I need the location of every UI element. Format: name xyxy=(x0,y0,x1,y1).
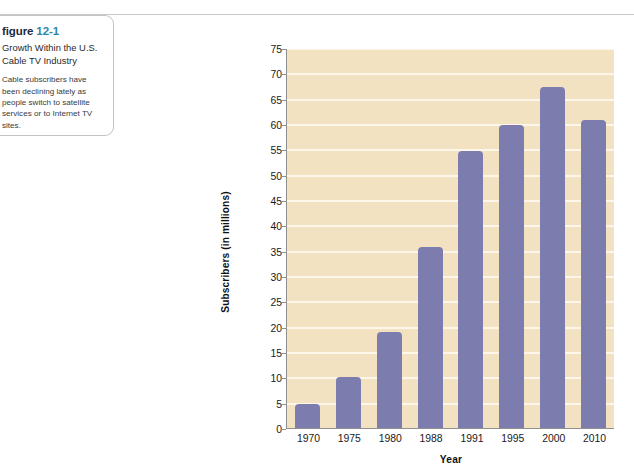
x-tick-label: 2010 xyxy=(583,433,606,444)
y-tick-mark xyxy=(281,252,286,253)
y-tick-label: 10 xyxy=(256,373,282,384)
y-tick-label: 65 xyxy=(256,94,282,105)
bar xyxy=(540,87,565,429)
figure-description: Cable subscribers have been declining la… xyxy=(2,74,103,131)
bar xyxy=(336,377,361,429)
y-tick-mark xyxy=(281,201,286,202)
x-tick-label: 1970 xyxy=(297,433,320,444)
x-tick-label: 1988 xyxy=(420,433,443,444)
y-tick-label: 50 xyxy=(256,170,282,181)
y-axis-tick-labels: 051015202530354045505560657075 xyxy=(256,49,282,429)
y-tick-label: 25 xyxy=(256,297,282,308)
bar xyxy=(418,247,443,429)
y-tick-label: 55 xyxy=(256,145,282,156)
figure-title: Growth Within the U.S. Cable TV Industry xyxy=(2,42,103,67)
y-tick-label: 45 xyxy=(256,196,282,207)
x-axis-line xyxy=(286,428,614,429)
y-tick-label: 5 xyxy=(256,398,282,409)
figure-heading-word: figure xyxy=(2,25,33,37)
y-tick-label: 40 xyxy=(256,221,282,232)
figure-heading: figure12-1 xyxy=(2,25,103,37)
y-tick-mark xyxy=(281,74,286,75)
y-tick-mark xyxy=(281,404,286,405)
y-tick-mark xyxy=(281,378,286,379)
y-tick-label: 20 xyxy=(256,322,282,333)
bar-chart: Subscribers (in millions) 05101520253035… xyxy=(226,34,634,464)
gridline xyxy=(287,73,614,75)
figure-caption-panel: figure12-1 Growth Within the U.S. Cable … xyxy=(0,15,114,136)
y-tick-label: 0 xyxy=(256,424,282,435)
y-tick-mark xyxy=(281,100,286,101)
plot-area xyxy=(287,49,614,429)
x-axis-title: Year xyxy=(287,454,615,464)
y-tick-label: 70 xyxy=(256,69,282,80)
bar xyxy=(581,120,606,429)
x-tick-label: 1991 xyxy=(460,433,483,444)
y-tick-mark xyxy=(281,353,286,354)
y-tick-mark xyxy=(281,302,286,303)
y-tick-label: 30 xyxy=(256,272,282,283)
y-tick-mark xyxy=(281,176,286,177)
y-tick-label: 75 xyxy=(256,44,282,55)
y-tick-mark xyxy=(281,277,286,278)
y-tick-label: 15 xyxy=(256,348,282,359)
y-tick-mark xyxy=(281,226,286,227)
y-tick-mark xyxy=(281,125,286,126)
y-tick-mark xyxy=(281,49,286,50)
x-tick-label: 2000 xyxy=(542,433,565,444)
bar xyxy=(295,404,320,429)
x-tick-label: 1995 xyxy=(501,433,524,444)
y-tick-label: 60 xyxy=(256,120,282,131)
x-tick-label: 1975 xyxy=(338,433,361,444)
plot-frame: 051015202530354045505560657075 xyxy=(286,49,614,429)
x-axis-tick-labels: 19701975198019881991199520002010 xyxy=(287,433,615,449)
y-axis-title: Subscribers (in millions) xyxy=(220,142,231,362)
y-tick-mark xyxy=(281,150,286,151)
x-tick-label: 1980 xyxy=(379,433,402,444)
figure-heading-number: 12-1 xyxy=(36,25,59,37)
y-tick-label: 35 xyxy=(256,246,282,257)
y-tick-mark xyxy=(281,328,286,329)
bar xyxy=(377,332,402,429)
y-tick-mark xyxy=(281,429,286,430)
gridline xyxy=(287,49,614,50)
bar xyxy=(458,151,483,429)
bar xyxy=(499,125,524,429)
